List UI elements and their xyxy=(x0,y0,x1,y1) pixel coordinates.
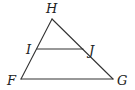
vertex-label-f: F xyxy=(6,73,17,88)
point-label-i: I xyxy=(25,42,32,57)
point-label-j: J xyxy=(86,43,95,58)
vertex-label-g: G xyxy=(117,73,127,88)
vertex-label-h: H xyxy=(45,1,58,16)
triangle-diagram: H I J F G xyxy=(0,0,135,90)
